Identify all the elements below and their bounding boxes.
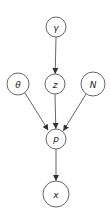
node-n-label: N (90, 80, 97, 90)
node-z-label: z (52, 80, 58, 90)
node-p: p (46, 129, 66, 149)
node-theta: θ (7, 73, 29, 95)
bayesian-network-diagram: γ θ z N p x (0, 0, 111, 219)
edge-z-to-p (55, 94, 56, 129)
node-gamma-label: γ (53, 23, 59, 33)
node-x-label: x (52, 190, 59, 200)
node-z: z (45, 74, 65, 94)
node-theta-label: θ (15, 80, 21, 90)
node-x: x (43, 181, 69, 207)
edge-n-to-p (64, 94, 87, 131)
edge-gamma-to-z (55, 37, 56, 74)
node-gamma: γ (46, 17, 66, 37)
node-n: N (81, 72, 105, 96)
edge-theta-to-p (25, 93, 48, 130)
node-p-label: p (52, 134, 59, 144)
